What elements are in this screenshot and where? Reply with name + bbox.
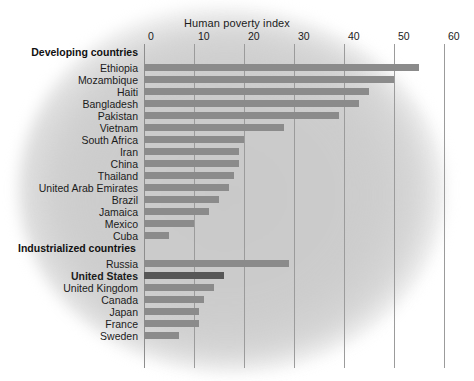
bar-russia bbox=[144, 260, 289, 267]
bar-mexico bbox=[144, 220, 194, 227]
row-label-mozambique: Mozambique bbox=[0, 74, 138, 86]
chart-row: Bangladesh bbox=[0, 98, 474, 110]
x-tick-label-60: 60 bbox=[448, 30, 460, 42]
chart-row: United States bbox=[0, 270, 474, 282]
row-label-russia: Russia bbox=[0, 258, 138, 270]
chart-row: Cuba bbox=[0, 230, 474, 242]
bar-thailand bbox=[144, 172, 234, 179]
row-label-vietnam: Vietnam bbox=[0, 122, 138, 134]
bar-canada bbox=[144, 296, 204, 303]
chart-row: Ethiopia bbox=[0, 62, 474, 74]
chart-row: Pakistan bbox=[0, 110, 474, 122]
group-label: Industrialized countries bbox=[18, 242, 136, 254]
chart-row: South Africa bbox=[0, 134, 474, 146]
chart-row: Thailand bbox=[0, 170, 474, 182]
x-tick-label-40: 40 bbox=[348, 30, 360, 42]
chart-row: France bbox=[0, 318, 474, 330]
bar-cuba bbox=[144, 232, 169, 239]
row-label-pakistan: Pakistan bbox=[0, 110, 138, 122]
row-label-china: China bbox=[0, 158, 138, 170]
chart-title: Human poverty index bbox=[0, 17, 474, 29]
row-label-france: France bbox=[0, 318, 138, 330]
row-label-united-arab-emirates: United Arab Emirates bbox=[0, 182, 138, 194]
bar-brazil bbox=[144, 196, 219, 203]
row-label-brazil: Brazil bbox=[0, 194, 138, 206]
chart-row: Iran bbox=[0, 146, 474, 158]
group-label: Developing countries bbox=[0, 46, 138, 58]
bar-japan bbox=[144, 308, 199, 315]
bar-united-kingdom bbox=[144, 284, 214, 291]
bar-ethiopia bbox=[144, 64, 419, 71]
row-label-south-africa: South Africa bbox=[0, 134, 138, 146]
bar-united-states bbox=[144, 272, 224, 279]
x-tick-label-20: 20 bbox=[248, 30, 260, 42]
row-label-canada: Canada bbox=[0, 294, 138, 306]
chart-row: Haiti bbox=[0, 86, 474, 98]
chart-row: Japan bbox=[0, 306, 474, 318]
bar-mozambique bbox=[144, 76, 394, 83]
bar-pakistan bbox=[144, 112, 339, 119]
row-label-japan: Japan bbox=[0, 306, 138, 318]
bar-iran bbox=[144, 148, 239, 155]
x-tick-label-50: 50 bbox=[398, 30, 410, 42]
x-tick-label-0: 0 bbox=[148, 30, 154, 42]
bar-south-africa bbox=[144, 136, 244, 143]
row-label-thailand: Thailand bbox=[0, 170, 138, 182]
row-label-united-states: United States bbox=[0, 270, 138, 282]
bar-bangladesh bbox=[144, 100, 359, 107]
row-label-cuba: Cuba bbox=[0, 230, 138, 242]
chart-row: China bbox=[0, 158, 474, 170]
bar-china bbox=[144, 160, 239, 167]
chart-figure: Human poverty index 0102030405060 Develo… bbox=[0, 0, 474, 381]
chart-row: Canada bbox=[0, 294, 474, 306]
chart-row: Mozambique bbox=[0, 74, 474, 86]
bar-france bbox=[144, 320, 199, 327]
chart-row: United Arab Emirates bbox=[0, 182, 474, 194]
chart-row: United Kingdom bbox=[0, 282, 474, 294]
chart-row: Brazil bbox=[0, 194, 474, 206]
x-tick-label-10: 10 bbox=[198, 30, 210, 42]
bar-jamaica bbox=[144, 208, 209, 215]
chart-row: Sweden bbox=[0, 330, 474, 342]
bar-vietnam bbox=[144, 124, 284, 131]
chart-rows: Developing countriesEthiopiaMozambiqueHa… bbox=[0, 44, 474, 374]
row-label-ethiopia: Ethiopia bbox=[0, 62, 138, 74]
row-label-sweden: Sweden bbox=[0, 330, 138, 342]
row-label-bangladesh: Bangladesh bbox=[0, 98, 138, 110]
row-label-iran: Iran bbox=[0, 146, 138, 158]
chart-row: Vietnam bbox=[0, 122, 474, 134]
row-label-united-kingdom: United Kingdom bbox=[0, 282, 138, 294]
chart-row: Russia bbox=[0, 258, 474, 270]
row-label-haiti: Haiti bbox=[0, 86, 138, 98]
bar-sweden bbox=[144, 332, 179, 339]
chart-row: Mexico bbox=[0, 218, 474, 230]
chart-row: Jamaica bbox=[0, 206, 474, 218]
x-tick-label-30: 30 bbox=[298, 30, 310, 42]
row-label-mexico: Mexico bbox=[0, 218, 138, 230]
bar-haiti bbox=[144, 88, 369, 95]
row-label-jamaica: Jamaica bbox=[0, 206, 138, 218]
bar-united-arab-emirates bbox=[144, 184, 229, 191]
